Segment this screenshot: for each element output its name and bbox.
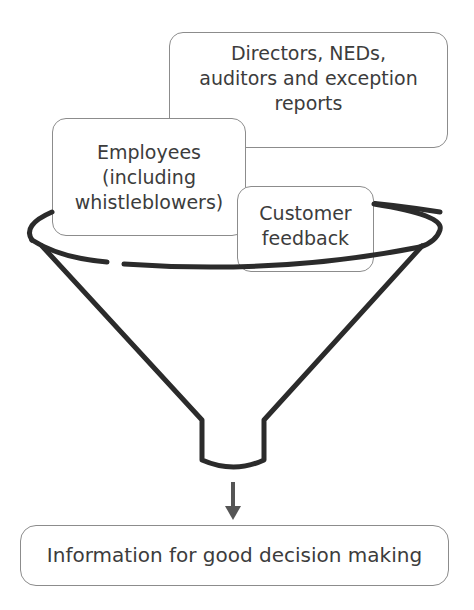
- funnel-icon: [0, 0, 474, 610]
- down-arrow-icon: [225, 482, 241, 520]
- output-label: Information for good decision making: [47, 543, 422, 568]
- output-box: Information for good decision making: [20, 525, 449, 586]
